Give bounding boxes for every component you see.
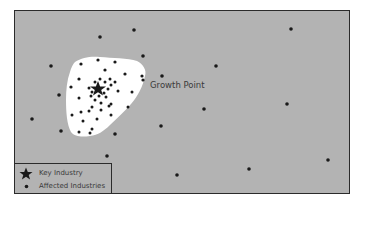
dot-icon <box>105 154 109 158</box>
dot-icon <box>91 128 94 131</box>
dot-icon <box>59 129 63 133</box>
dot-icon <box>90 95 93 98</box>
dot-icon <box>98 35 102 39</box>
dot-icon <box>113 60 116 63</box>
dot-icon <box>88 110 91 113</box>
dot-icon <box>30 117 34 121</box>
dot-icon <box>49 64 53 68</box>
legend: Key Industry Affected Industries <box>15 163 112 193</box>
dot-icon <box>24 184 29 189</box>
dot-icon <box>110 84 113 87</box>
dot-icon <box>103 92 106 95</box>
dot-icon <box>131 91 134 94</box>
dot-icon <box>141 54 145 58</box>
dot-icon <box>140 74 143 77</box>
dot-icon <box>88 87 91 90</box>
dot-icon <box>98 95 101 98</box>
dot-icon <box>82 120 85 123</box>
dot-icon <box>159 124 163 128</box>
dot-icon <box>175 173 179 177</box>
dot-icon <box>79 62 82 65</box>
growth-point-label: Growth Point <box>150 80 205 90</box>
dot-icon <box>127 106 130 109</box>
dot-icon <box>110 114 113 117</box>
dot-icon <box>105 96 108 99</box>
dot-icon <box>91 91 94 94</box>
dot-icon <box>141 78 144 81</box>
dot-icon <box>80 111 83 114</box>
dot-icon <box>100 109 103 112</box>
dot-icon <box>99 78 102 81</box>
legend-item-affected-industries: Affected Industries <box>15 181 110 193</box>
dot-icon <box>78 97 81 100</box>
legend-label: Affected Industries <box>39 182 105 190</box>
dot-icon <box>104 81 107 84</box>
dot-icon <box>247 167 251 171</box>
dot-icon <box>117 90 120 93</box>
dot-icon <box>107 88 110 91</box>
dot-icon <box>214 64 218 68</box>
dot-icon <box>96 58 99 61</box>
dot-icon <box>78 131 81 134</box>
dot-icon <box>94 81 97 84</box>
dot-icon <box>57 93 61 97</box>
dot-icon <box>160 74 164 78</box>
legend-label: Key Industry <box>39 169 83 177</box>
dot-icon <box>114 81 117 84</box>
dot-icon <box>69 85 72 88</box>
dot-icon <box>132 28 136 32</box>
dot-icon <box>109 78 112 81</box>
star-icon <box>19 167 33 181</box>
dot-icon <box>91 106 94 109</box>
dot-icon <box>289 27 293 31</box>
dot-icon <box>113 132 117 136</box>
dot-icon <box>89 132 92 135</box>
dot-icon <box>96 118 99 121</box>
dot-icon <box>326 158 330 162</box>
dot-icon <box>103 68 106 71</box>
dot-icon <box>285 102 289 106</box>
dot-icon <box>77 77 80 80</box>
legend-item-key-industry: Key Industry <box>15 168 110 180</box>
dot-icon <box>110 103 113 106</box>
dot-icon <box>202 107 206 111</box>
dot-icon <box>123 72 126 75</box>
dot-icon <box>100 102 103 105</box>
dot-icon <box>71 114 74 117</box>
dot-icon <box>94 99 97 102</box>
